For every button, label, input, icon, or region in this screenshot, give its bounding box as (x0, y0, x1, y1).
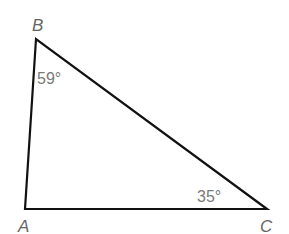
vertex-label-b: B (32, 16, 43, 35)
vertex-label-a: A (17, 217, 29, 234)
angle-label-c: 35° (197, 188, 221, 205)
vertex-label-c: C (260, 217, 273, 234)
triangle-abc (25, 39, 267, 209)
triangle-diagram: B A C 59° 35° (0, 0, 289, 234)
angle-label-b: 59° (37, 70, 61, 87)
